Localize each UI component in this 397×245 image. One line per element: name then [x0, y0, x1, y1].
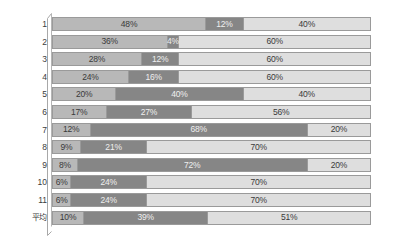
bar-rows: 148%12%40%236%4%60%328%12%60%424%16%60%5…	[0, 0, 397, 245]
stacked-bar: 9%21%70%	[52, 140, 373, 154]
row-label: 10	[7, 175, 47, 189]
bar-segment-series-1: 10%	[52, 211, 84, 225]
segment-value-label: 56%	[273, 108, 289, 117]
bar-segment-series-2: 16%	[128, 70, 179, 84]
stacked-bar: 10%39%51%	[52, 211, 373, 225]
segment-value-label: 20%	[76, 90, 92, 99]
segment-value-label: 48%	[121, 20, 137, 29]
bar-segment-series-1: 28%	[52, 52, 142, 66]
segment-value-label: 40%	[299, 20, 315, 29]
bar-row: 236%4%60%	[52, 35, 373, 49]
bar-segment-series-3: 51%	[207, 211, 371, 225]
stacked-bar: 36%4%60%	[52, 35, 373, 49]
row-label: 6	[7, 105, 47, 119]
bar-segment-series-1: 6%	[52, 175, 71, 189]
segment-value-label: 9%	[60, 143, 72, 152]
segment-value-label: 6%	[56, 196, 68, 205]
segment-value-label: 24%	[101, 196, 117, 205]
bar-row: 98%72%20%	[52, 158, 373, 172]
row-label: 7	[7, 123, 47, 137]
bar-segment-series-2: 24%	[70, 193, 147, 207]
row-label: 11	[7, 193, 47, 207]
segment-value-label: 36%	[102, 37, 118, 46]
segment-value-label: 51%	[281, 213, 297, 222]
bar-segment-series-1: 48%	[52, 17, 206, 31]
segment-value-label: 4%	[167, 37, 179, 46]
stacked-bar: 28%12%60%	[52, 52, 373, 66]
bar-segment-series-2: 27%	[106, 105, 193, 119]
bar-segment-series-3: 70%	[146, 193, 371, 207]
segment-value-label: 6%	[56, 178, 68, 187]
bar-segment-series-3: 56%	[191, 105, 371, 119]
bar-row: 617%27%56%	[52, 105, 373, 119]
segment-value-label: 60%	[266, 73, 282, 82]
bar-segment-series-2: 40%	[115, 87, 243, 101]
bar-row: 148%12%40%	[52, 17, 373, 31]
segment-value-label: 8%	[59, 161, 71, 170]
segment-value-label: 21%	[105, 143, 121, 152]
bar-segment-series-1: 6%	[52, 193, 71, 207]
segment-value-label: 10%	[60, 213, 76, 222]
bar-segment-series-3: 70%	[146, 140, 371, 154]
stacked-bar: 24%16%60%	[52, 70, 373, 84]
segment-value-label: 12%	[152, 55, 168, 64]
segment-value-label: 68%	[190, 125, 206, 134]
row-label: 2	[7, 35, 47, 49]
bar-segment-series-1: 9%	[52, 140, 81, 154]
stacked-bar: 17%27%56%	[52, 105, 373, 119]
bar-segment-series-1: 36%	[52, 35, 168, 49]
row-label: 4	[7, 70, 47, 84]
bar-segment-series-3: 60%	[178, 70, 371, 84]
segment-value-label: 16%	[146, 73, 162, 82]
bar-row: 106%24%70%	[52, 175, 373, 189]
segment-value-label: 12%	[63, 125, 79, 134]
bar-segment-series-2: 68%	[90, 123, 308, 137]
segment-value-label: 70%	[250, 178, 266, 187]
row-label: 1	[7, 17, 47, 31]
stacked-bar: 6%24%70%	[52, 175, 373, 189]
segment-value-label: 39%	[137, 213, 153, 222]
bar-segment-series-2: 72%	[77, 158, 308, 172]
bar-segment-series-2: 12%	[205, 17, 244, 31]
bar-segment-series-3: 20%	[307, 123, 371, 137]
segment-value-label: 27%	[141, 108, 157, 117]
bar-row: 116%24%70%	[52, 193, 373, 207]
bar-row: 712%68%20%	[52, 123, 373, 137]
bar-segment-series-1: 17%	[52, 105, 107, 119]
bar-segment-series-1: 12%	[52, 123, 91, 137]
segment-value-label: 70%	[250, 143, 266, 152]
bar-segment-series-2: 24%	[70, 175, 147, 189]
bar-segment-series-3: 20%	[307, 158, 371, 172]
stacked-bar: 48%12%40%	[52, 17, 373, 31]
segment-value-label: 60%	[266, 55, 282, 64]
stacked-bar: 20%40%40%	[52, 87, 373, 101]
bar-segment-series-3: 70%	[146, 175, 371, 189]
segment-value-label: 28%	[89, 55, 105, 64]
row-label: 9	[7, 158, 47, 172]
bar-row: 424%16%60%	[52, 70, 373, 84]
segment-value-label: 40%	[299, 90, 315, 99]
segment-value-label: 40%	[171, 90, 187, 99]
row-label: 3	[7, 52, 47, 66]
segment-value-label: 20%	[331, 161, 347, 170]
bar-segment-series-1: 8%	[52, 158, 78, 172]
bar-segment-series-2: 21%	[80, 140, 147, 154]
segment-value-label: 12%	[216, 20, 232, 29]
bar-segment-series-2: 12%	[141, 52, 180, 66]
bar-segment-series-1: 20%	[52, 87, 116, 101]
segment-value-label: 70%	[250, 196, 266, 205]
segment-value-label: 72%	[184, 161, 200, 170]
segment-value-label: 60%	[266, 37, 282, 46]
stacked-bar: 6%24%70%	[52, 193, 373, 207]
segment-value-label: 24%	[101, 178, 117, 187]
bar-row: 89%21%70%	[52, 140, 373, 154]
bar-row: 328%12%60%	[52, 52, 373, 66]
row-label: 平均	[7, 211, 47, 225]
stacked-bar: 8%72%20%	[52, 158, 373, 172]
row-label: 8	[7, 140, 47, 154]
row-label: 5	[7, 87, 47, 101]
bar-segment-series-1: 24%	[52, 70, 129, 84]
bar-segment-series-3: 40%	[243, 87, 371, 101]
chart-container: 148%12%40%236%4%60%328%12%60%424%16%60%5…	[0, 0, 397, 245]
segment-value-label: 17%	[71, 108, 87, 117]
